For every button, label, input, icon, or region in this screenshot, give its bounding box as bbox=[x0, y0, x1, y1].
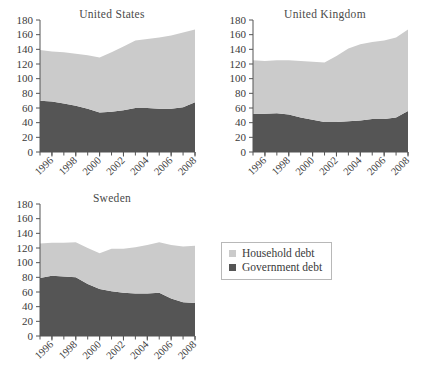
panel-title-united-states: United States bbox=[22, 8, 202, 20]
svg-text:20: 20 bbox=[22, 315, 34, 327]
svg-text:2000: 2000 bbox=[293, 155, 316, 178]
svg-text:2008: 2008 bbox=[176, 155, 199, 178]
legend: Household debt Government debt bbox=[221, 242, 332, 280]
legend-swatch-government-icon bbox=[229, 264, 236, 271]
svg-text:40: 40 bbox=[22, 116, 34, 128]
legend-label-government: Government debt bbox=[242, 261, 322, 275]
svg-text:120: 120 bbox=[230, 58, 247, 70]
chart-united-states: 0204060801001201401601801996199820002002… bbox=[0, 6, 212, 188]
area-household-debt bbox=[253, 30, 408, 122]
svg-text:1998: 1998 bbox=[57, 339, 80, 362]
svg-text:0: 0 bbox=[241, 146, 247, 158]
svg-text:160: 160 bbox=[17, 212, 34, 224]
svg-text:2008: 2008 bbox=[176, 339, 199, 362]
legend-label-household: Household debt bbox=[242, 247, 315, 261]
svg-text:20: 20 bbox=[235, 131, 247, 143]
svg-text:2000: 2000 bbox=[80, 155, 103, 178]
svg-text:100: 100 bbox=[17, 72, 34, 84]
svg-text:2004: 2004 bbox=[128, 154, 151, 177]
panel-united-states: United States 02040608010012014016018019… bbox=[0, 6, 212, 188]
svg-text:2004: 2004 bbox=[341, 154, 364, 177]
svg-text:2000: 2000 bbox=[80, 339, 103, 362]
svg-text:60: 60 bbox=[22, 286, 34, 298]
svg-text:2002: 2002 bbox=[104, 155, 127, 178]
svg-text:2006: 2006 bbox=[152, 339, 175, 362]
svg-text:60: 60 bbox=[235, 102, 247, 114]
figure-root: United States 02040608010012014016018019… bbox=[0, 0, 425, 380]
svg-text:60: 60 bbox=[22, 102, 34, 114]
area-household-debt bbox=[40, 30, 195, 113]
svg-text:1996: 1996 bbox=[33, 155, 56, 178]
svg-text:120: 120 bbox=[17, 242, 34, 254]
svg-text:1996: 1996 bbox=[33, 339, 56, 362]
legend-item-government[interactable]: Government debt bbox=[229, 261, 322, 275]
svg-text:140: 140 bbox=[230, 43, 247, 55]
svg-text:0: 0 bbox=[28, 146, 34, 158]
svg-text:2006: 2006 bbox=[152, 155, 175, 178]
svg-text:1996: 1996 bbox=[246, 155, 269, 178]
panel-title-united-kingdom: United Kingdom bbox=[235, 8, 415, 20]
legend-swatch-household-icon bbox=[229, 250, 236, 257]
svg-text:40: 40 bbox=[22, 300, 34, 312]
svg-text:100: 100 bbox=[17, 256, 34, 268]
svg-text:120: 120 bbox=[17, 58, 34, 70]
svg-text:2004: 2004 bbox=[128, 338, 151, 361]
panel-sweden: Sweden 020406080100120140160180199619982… bbox=[0, 190, 212, 378]
svg-text:160: 160 bbox=[230, 28, 247, 40]
svg-text:80: 80 bbox=[22, 271, 34, 283]
svg-text:0: 0 bbox=[28, 330, 34, 342]
svg-text:1998: 1998 bbox=[270, 155, 293, 178]
svg-text:160: 160 bbox=[17, 28, 34, 40]
svg-text:140: 140 bbox=[17, 43, 34, 55]
svg-text:100: 100 bbox=[230, 72, 247, 84]
panel-united-kingdom: United Kingdom 0204060801001201401601801… bbox=[213, 6, 425, 188]
chart-united-kingdom: 0204060801001201401601801996199820002002… bbox=[213, 6, 425, 188]
svg-text:20: 20 bbox=[22, 131, 34, 143]
chart-sweden: 0204060801001201401601801996199820002002… bbox=[0, 190, 212, 378]
svg-text:80: 80 bbox=[22, 87, 34, 99]
svg-text:2002: 2002 bbox=[317, 155, 340, 178]
svg-text:1998: 1998 bbox=[57, 155, 80, 178]
svg-text:2002: 2002 bbox=[104, 339, 127, 362]
svg-text:2008: 2008 bbox=[389, 155, 412, 178]
svg-text:40: 40 bbox=[235, 116, 247, 128]
legend-item-household[interactable]: Household debt bbox=[229, 247, 322, 261]
svg-text:2006: 2006 bbox=[365, 155, 388, 178]
svg-text:80: 80 bbox=[235, 87, 247, 99]
panel-title-sweden: Sweden bbox=[22, 192, 202, 204]
svg-text:140: 140 bbox=[17, 227, 34, 239]
